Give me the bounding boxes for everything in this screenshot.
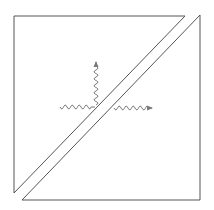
- lower-prism: [22, 15, 200, 200]
- diagram-canvas: [0, 0, 214, 210]
- incident-wave-arrow: [60, 105, 95, 109]
- reflected-wave-arrow: [94, 62, 98, 105]
- upper-prism: [14, 16, 185, 193]
- transmitted-wave-arrow: [114, 106, 152, 110]
- beam-splitter-diagram: [0, 0, 214, 210]
